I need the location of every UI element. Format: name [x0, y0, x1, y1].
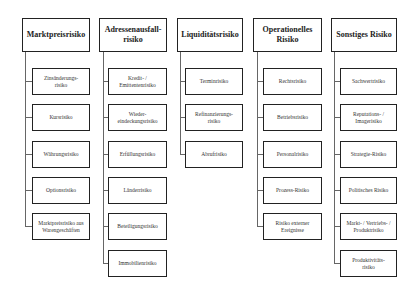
item-zinsaenderungsrisiko: Zinsänderungs-risiko [32, 68, 90, 95]
header-liquiditaetsrisiko: Liquiditätsrisiko [177, 18, 243, 52]
connector-line [25, 52, 26, 226]
connector-line [25, 190, 32, 191]
header-operationelles-risiko: Operationelles Risiko [253, 18, 322, 52]
item-kredit-emittentenrisiko: Kredit- / Emittentenrisiko [108, 68, 167, 95]
item-markt-vertriebs-produktrisiko: Markt- / Vertriebs- / Produktrisiko [340, 213, 397, 240]
item-laenderrisiko: Länderrisiko [108, 177, 167, 204]
item-refinanzierungsrisiko: Refinanzierungs-risiko [185, 104, 243, 131]
connector-line [180, 52, 181, 154]
item-kursrisiko: Kursrisiko [32, 104, 90, 131]
item-strategie-risiko: Strategie-Risiko [340, 141, 397, 168]
item-wiedereindeckungsrisiko: Wieder-eindeckungsrisiko [108, 104, 167, 131]
item-risiko-externer-ereignisse: Risiko externer Ereignisse [263, 213, 322, 240]
item-optionsrisiko: Optionsrisiko [32, 177, 90, 204]
item-sachwertrisiko: Sachwertrisiko [340, 68, 397, 95]
connector-line [25, 154, 32, 155]
item-immobilienrisiko: Immobilienrisiko [108, 250, 167, 277]
item-marktpreisrisiko-waren: Marktpreisrisiko aus Warengeschäften [32, 213, 90, 240]
item-erfuellungsrisiko: Erfüllungsrisiko [108, 141, 167, 168]
header-adressenausfallrisiko: Adressenausfall-risiko [99, 18, 167, 52]
item-produktivitaetsrisiko: Produktivitäts-risiko [340, 250, 397, 277]
item-waehrungsrisiko: Währungsrisiko [32, 141, 90, 168]
connector-line [334, 52, 335, 264]
header-sonstiges-risiko: Sonstiges Risiko [331, 18, 397, 52]
item-politisches-risiko: Politisches Risiko [340, 177, 397, 204]
item-betriebsrisiko: Betriebsrisiko [263, 104, 322, 131]
header-marktpreisrisiko: Marktpreisrisiko [22, 18, 90, 52]
item-abrufrisiko: Abrufrisiko [185, 141, 243, 168]
item-rechtsrisiko: Rechtsrisiko [263, 68, 322, 95]
connector-line [25, 226, 32, 227]
connector-line [257, 52, 258, 226]
item-personalrisiko: Personalrisiko [263, 141, 322, 168]
connector-line [25, 81, 32, 82]
item-beteiligungsrisiko: Beteiligungsrisiko [108, 213, 167, 240]
item-prozess-risiko: Prozess-Risiko [263, 177, 322, 204]
item-reputations-imagerisiko: Reputations- / Imagerisiko [340, 104, 397, 131]
item-terminrisiko: Terminrisiko [185, 68, 243, 95]
connector-line [25, 117, 32, 118]
connector-line [103, 52, 104, 264]
